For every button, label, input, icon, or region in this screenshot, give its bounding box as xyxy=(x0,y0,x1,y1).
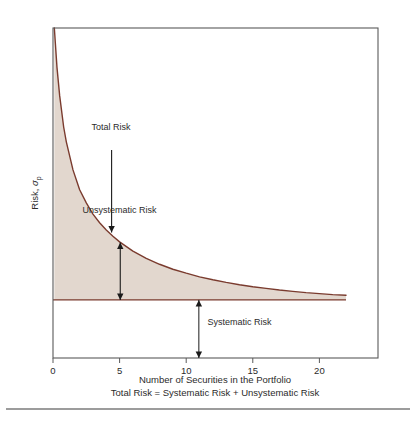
unsystematic-risk-label: Unsystematic Risk xyxy=(83,205,158,215)
chart-caption: Total Risk = Systematic Risk + Unsystema… xyxy=(111,387,320,398)
risk-diversification-figure: 05101520 Total Risk Unsystematic R xyxy=(0,0,416,430)
y-axis-title-group: Risk, σp xyxy=(29,176,43,209)
chart-page: 05101520 Total Risk Unsystematic R xyxy=(0,0,416,430)
y-axis-title-subscript: p xyxy=(35,176,43,180)
x-tick-label-20: 20 xyxy=(314,365,325,376)
total-risk-label: Total Risk xyxy=(91,122,131,132)
y-axis-title: Risk, σp xyxy=(29,176,43,209)
x-tick-label-5: 5 xyxy=(117,365,122,376)
plot-background xyxy=(53,28,378,358)
x-axis-title: Number of Securities in the Portfolio xyxy=(139,374,291,385)
systematic-risk-label: Systematic Risk xyxy=(208,317,273,327)
x-tick-label-0: 0 xyxy=(50,365,55,376)
y-axis-title-main: Risk, xyxy=(29,186,40,210)
